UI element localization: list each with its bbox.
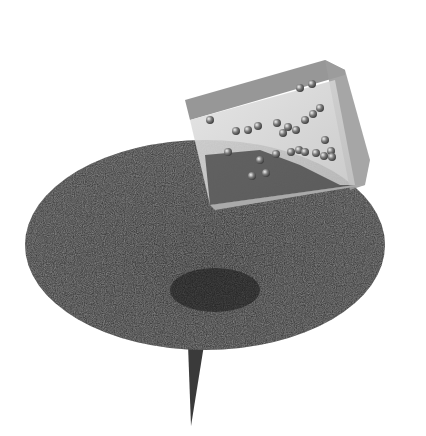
sphere — [292, 126, 300, 134]
sphere — [287, 148, 295, 156]
sphere — [308, 80, 316, 88]
sphere — [256, 156, 264, 164]
sphere — [312, 149, 320, 157]
sphere — [272, 150, 280, 158]
sphere — [224, 148, 232, 156]
sphere — [321, 136, 329, 144]
sphere — [262, 169, 270, 177]
sphere — [320, 152, 328, 160]
sphere — [232, 127, 240, 135]
sphere — [309, 110, 317, 118]
scene-image — [0, 0, 426, 436]
disc-center-shadow — [170, 268, 260, 312]
sphere — [273, 119, 281, 127]
translucent-cube — [185, 60, 370, 210]
sphere — [284, 123, 292, 131]
sphere — [296, 84, 304, 92]
sphere — [328, 153, 336, 161]
sphere — [254, 122, 262, 130]
sphere — [248, 172, 256, 180]
sphere — [244, 126, 252, 134]
stalk — [188, 345, 204, 426]
sphere — [301, 116, 309, 124]
sphere — [316, 104, 324, 112]
sphere — [206, 116, 214, 124]
sphere — [301, 148, 309, 156]
